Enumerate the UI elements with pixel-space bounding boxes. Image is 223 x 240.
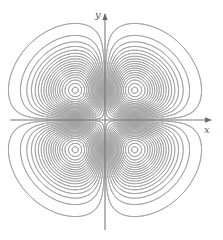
y-axis-label: y bbox=[95, 10, 101, 20]
contour-plot bbox=[0, 0, 223, 240]
x-axis-label: x bbox=[204, 125, 210, 135]
